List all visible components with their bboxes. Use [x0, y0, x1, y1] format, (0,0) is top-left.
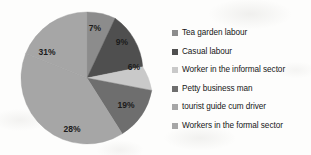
legend-item-workers-formal-sector[interactable]: Workers in the formal sector [172, 117, 308, 136]
legend-item-label: Petty business man [182, 85, 253, 93]
legend-item-label: Workers in the formal sector [182, 122, 283, 130]
pie-label-tourist-guide-cum-driver: 28% [63, 124, 80, 134]
legend-item-label: tourist guide cum driver [182, 103, 266, 111]
pie-plot-area: 7% 9% 6% 19% 28% 31% [16, 6, 160, 152]
legend-item-casual-labour[interactable]: Casual labour [172, 43, 308, 62]
legend-swatch-icon [172, 49, 178, 55]
pie-chart-figure: 7% 9% 6% 19% 28% 31% Tea garden labour C… [0, 0, 311, 155]
pie-svg: 7% 9% 6% 19% 28% 31% [16, 6, 160, 152]
legend-item-label: Tea garden labour [182, 29, 247, 37]
pie-label-casual-labour: 9% [116, 37, 129, 47]
legend-swatch-icon [172, 86, 178, 92]
legend-item-label: Worker in the informal sector [182, 66, 285, 74]
pie-label-workers-formal-sector: 31% [38, 47, 55, 57]
chart-legend: Tea garden labour Casual labour Worker i… [172, 24, 308, 135]
legend-item-label: Casual labour [182, 48, 232, 56]
legend-swatch-icon [172, 104, 178, 110]
legend-item-worker-informal-sector[interactable]: Worker in the informal sector [172, 61, 308, 80]
legend-item-petty-business-man[interactable]: Petty business man [172, 80, 308, 99]
legend-swatch-icon [172, 123, 178, 129]
legend-item-tea-garden-labour[interactable]: Tea garden labour [172, 24, 308, 43]
pie-slices [21, 12, 152, 144]
pie-label-worker-informal-sector: 6% [128, 62, 141, 72]
legend-swatch-icon [172, 67, 178, 73]
pie-label-petty-business-man: 19% [117, 100, 134, 110]
legend-item-tourist-guide-cum-driver[interactable]: tourist guide cum driver [172, 98, 308, 117]
pie-label-tea-garden-labour: 7% [89, 23, 102, 33]
legend-swatch-icon [172, 30, 178, 36]
